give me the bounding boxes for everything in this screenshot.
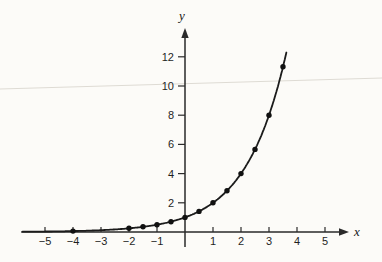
- data-point: [182, 215, 187, 220]
- x-axis-arrow-icon: [339, 228, 349, 236]
- y-tick-label: 10: [162, 80, 174, 92]
- x-tick-label: 5: [322, 235, 328, 247]
- data-point: [70, 228, 75, 233]
- data-point: [126, 226, 131, 231]
- x-tick-label: −1: [151, 235, 164, 247]
- data-point: [224, 188, 229, 193]
- data-point: [280, 64, 285, 69]
- scan-artifact-line: [0, 78, 382, 89]
- data-point: [140, 224, 145, 229]
- exponential-curve: [23, 53, 287, 232]
- x-tick-label: 2: [238, 235, 244, 247]
- data-point: [238, 171, 243, 176]
- y-axis-label: y: [177, 8, 185, 23]
- y-tick-label: 4: [168, 168, 174, 180]
- x-tick-label: 3: [266, 235, 272, 247]
- data-point: [266, 113, 271, 118]
- data-point: [196, 209, 201, 214]
- x-tick-label: 1: [210, 235, 216, 247]
- exponential-curve-chart: −5−4−3−2−11234524681012yx: [0, 0, 382, 262]
- data-point: [252, 147, 257, 152]
- x-axis-label: x: [353, 224, 360, 239]
- data-point: [210, 200, 215, 205]
- x-tick-label: −5: [39, 235, 52, 247]
- data-point: [168, 219, 173, 224]
- y-tick-label: 2: [168, 197, 174, 209]
- data-point: [154, 222, 159, 227]
- x-tick-label: −3: [95, 235, 108, 247]
- x-tick-label: 4: [294, 235, 300, 247]
- x-tick-label: −2: [123, 235, 136, 247]
- y-tick-label: 12: [162, 51, 174, 63]
- x-tick-label: −4: [67, 235, 80, 247]
- y-tick-label: 8: [168, 109, 174, 121]
- y-tick-label: 6: [168, 138, 174, 150]
- y-axis-arrow-icon: [181, 28, 188, 38]
- chart-figure: −5−4−3−2−11234524681012yx: [0, 0, 382, 262]
